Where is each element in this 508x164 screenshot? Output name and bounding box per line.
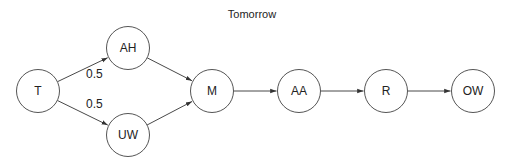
node-label: AA bbox=[291, 84, 307, 98]
node-label: UW bbox=[118, 128, 139, 142]
flow-diagram: Tomorrow 0.50.5 TAHUWMAAROW bbox=[0, 0, 508, 164]
edge-arrow bbox=[147, 101, 192, 125]
edge-arrow bbox=[147, 58, 192, 81]
edge-t-uw: 0.5 bbox=[57, 97, 107, 125]
node-ah: AH bbox=[107, 27, 150, 70]
edge-uw-m bbox=[147, 101, 192, 125]
edge-probability-label: 0.5 bbox=[86, 97, 103, 111]
node-t: T bbox=[17, 70, 60, 113]
node-uw: UW bbox=[107, 114, 150, 157]
node-ow: OW bbox=[452, 70, 495, 113]
edge-t-ah: 0.5 bbox=[57, 58, 107, 82]
node-label: T bbox=[34, 84, 42, 98]
nodes-layer: TAHUWMAAROW bbox=[17, 27, 495, 157]
node-label: OW bbox=[463, 84, 484, 98]
edge-ah-m bbox=[147, 58, 192, 81]
node-m: M bbox=[191, 70, 234, 113]
diagram-title: Tomorrow bbox=[228, 8, 276, 20]
edge-probability-label: 0.5 bbox=[86, 67, 103, 81]
node-label: AH bbox=[120, 41, 137, 55]
node-label: M bbox=[207, 84, 217, 98]
node-aa: AA bbox=[278, 70, 321, 113]
node-label: R bbox=[382, 84, 391, 98]
node-r: R bbox=[365, 70, 408, 113]
